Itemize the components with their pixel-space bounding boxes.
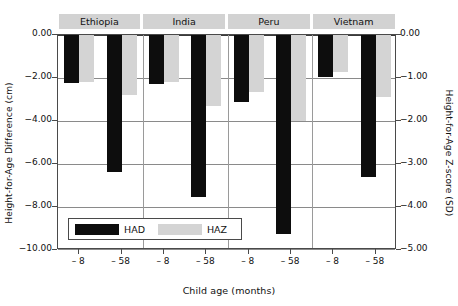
x-axis-title: Child age (months) [0,285,458,296]
y-tick-mark-left [52,77,57,78]
y-tick-mark-right [396,249,401,250]
x-tick-label: – 8 [72,256,85,266]
chart-legend: HADHAZ [68,218,242,240]
bar-haz [249,35,264,92]
x-tick-mark [121,249,122,254]
y-axis-right-title: Height-for-Age Z-score (SD) [444,53,454,253]
y-tick-mark-right [396,77,401,78]
plot-area [57,34,396,249]
chart-figure: Height-for-Age Difference (cm) Height-fo… [0,0,458,306]
gridline [58,207,395,208]
bar-had [64,35,79,83]
panel-header-strip: EthiopiaIndiaPeruVietnam [57,14,396,29]
y-tick-label-left: −6.00 [24,157,52,167]
panel-header-india: India [143,14,225,29]
x-tick-mark [163,249,164,254]
y-tick-label-left: 0.00 [32,28,52,38]
bar-had [361,35,376,177]
bar-haz [291,35,306,121]
panel-separator [312,35,313,248]
y-tick-mark-left [52,163,57,164]
y-tick-label-right: −5.00 [400,243,428,253]
legend-swatch-had [75,224,119,235]
x-tick-mark [248,249,249,254]
x-tick-label: – 58 [365,256,384,266]
y-axis-left-ticks: 0.00−2.00−4.00−6.00−8.00−10.00 [8,0,52,306]
y-tick-mark-right [396,163,401,164]
panel-header-label: Ethiopia [80,16,119,27]
y-tick-label-left: −2.00 [24,71,52,81]
y-tick-label-right: −1.00 [400,71,428,81]
y-tick-mark-left [52,120,57,121]
legend-swatch-haz [158,224,202,235]
bar-had [234,35,249,102]
panel-separator [228,35,229,248]
bar-haz [122,35,137,95]
y-tick-label-right: −4.00 [400,200,428,210]
legend-label-had: HAD [124,224,145,235]
y-tick-mark-left [52,34,57,35]
y-tick-label-left: −4.00 [24,114,52,124]
x-tick-label: – 58 [111,256,130,266]
y-tick-mark-right [396,206,401,207]
x-tick-label: – 58 [196,256,215,266]
y-tick-label-right: 0.00 [400,28,420,38]
bar-had [276,35,291,234]
bar-haz [164,35,179,82]
panel-separator [143,35,144,248]
x-axis-ticks: – 8– 58– 8– 58– 8– 58– 8– 58 [57,249,396,275]
y-axis-right-ticks: 0.00−1.00−2.00−3.00−4.00−5.00 [400,0,444,306]
bar-had [191,35,206,197]
bar-had [107,35,122,172]
bar-haz [333,35,348,72]
panel-header-vietnam: Vietnam [313,14,395,29]
y-tick-label-left: −10.00 [19,243,52,253]
panel-header-label: Peru [258,16,279,27]
bar-haz [206,35,221,106]
panel-header-label: Vietnam [334,16,374,27]
panel-header-ethiopia: Ethiopia [59,14,141,29]
y-tick-mark-left [52,249,57,250]
y-tick-mark-right [396,120,401,121]
x-tick-label: – 8 [326,256,339,266]
y-tick-label-left: −8.00 [24,200,52,210]
x-tick-mark [290,249,291,254]
bar-haz [376,35,391,97]
x-tick-mark [78,249,79,254]
bar-had [318,35,333,77]
legend-label-haz: HAZ [207,224,227,235]
x-tick-mark [375,249,376,254]
x-tick-mark [205,249,206,254]
panel-header-peru: Peru [228,14,310,29]
y-tick-mark-right [396,34,401,35]
bar-haz [79,35,94,82]
bar-had [149,35,164,84]
y-tick-mark-left [52,206,57,207]
x-tick-label: – 58 [281,256,300,266]
x-tick-label: – 8 [241,256,254,266]
y-tick-label-right: −2.00 [400,114,428,124]
x-tick-label: – 8 [156,256,169,266]
x-tick-mark [332,249,333,254]
panel-header-label: India [172,16,195,27]
y-tick-label-right: −3.00 [400,157,428,167]
